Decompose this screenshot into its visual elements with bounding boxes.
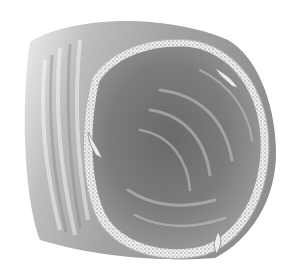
illustration-canvas: [0, 0, 281, 270]
tube-cross-section-illustration: [0, 0, 281, 270]
lumen: [92, 47, 260, 250]
